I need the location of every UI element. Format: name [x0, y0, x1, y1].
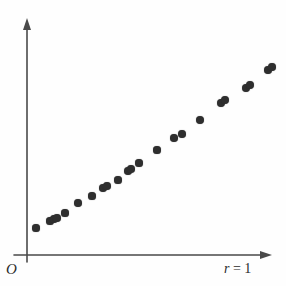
data-point — [127, 165, 135, 173]
data-point-layer — [0, 0, 286, 286]
data-point — [246, 81, 254, 89]
scatter-plot-figure: O r = 1 — [0, 0, 286, 286]
data-point — [103, 182, 111, 190]
data-point — [153, 146, 160, 153]
data-point — [268, 63, 276, 71]
data-point — [196, 116, 204, 124]
data-point — [61, 209, 68, 216]
data-point — [221, 96, 229, 104]
data-point — [114, 176, 121, 183]
data-point — [135, 159, 142, 166]
data-point — [88, 192, 95, 199]
data-point — [74, 199, 82, 207]
data-point — [170, 134, 178, 142]
data-point — [178, 130, 186, 138]
data-point — [32, 224, 39, 231]
data-point — [53, 214, 61, 222]
